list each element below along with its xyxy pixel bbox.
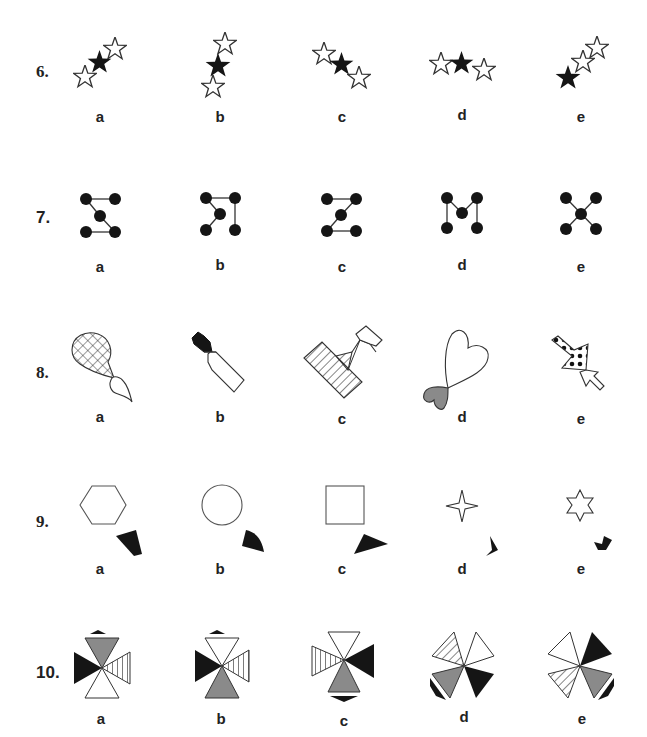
option-label-6c: c bbox=[332, 108, 352, 125]
option-label-10b: b bbox=[211, 710, 231, 727]
option-label-9a: a bbox=[90, 560, 110, 577]
question-number: 7. bbox=[36, 208, 50, 228]
question-number: 6. bbox=[36, 62, 49, 82]
stars-figure-6a[interactable] bbox=[70, 35, 130, 95]
stars-figure-6c[interactable] bbox=[310, 40, 380, 92]
pinwheel-figure-10a[interactable] bbox=[72, 630, 136, 702]
option-label-7b: b bbox=[210, 256, 230, 273]
star6-figure-9e[interactable] bbox=[566, 490, 626, 560]
option-label-7a: a bbox=[90, 258, 110, 275]
stars-figure-6d[interactable] bbox=[428, 46, 498, 86]
arrow-figure-8e[interactable] bbox=[552, 336, 622, 396]
option-label-9d: d bbox=[452, 560, 472, 577]
pinwheel-figure-10d[interactable] bbox=[428, 630, 498, 702]
stars-figure-6e[interactable] bbox=[553, 35, 613, 95]
option-label-10c: c bbox=[334, 712, 354, 729]
dots-figure-7a[interactable] bbox=[78, 192, 128, 242]
striped-figure-8c[interactable] bbox=[300, 322, 395, 402]
stars-figure-6b[interactable] bbox=[198, 30, 238, 100]
pinwheel-figure-10e[interactable] bbox=[546, 630, 616, 702]
dots-figure-7e[interactable] bbox=[558, 191, 608, 241]
dots-figure-7d[interactable] bbox=[439, 190, 489, 240]
option-label-9e: e bbox=[571, 560, 591, 577]
star4-figure-9d[interactable] bbox=[446, 490, 506, 560]
option-label-6a: a bbox=[90, 108, 110, 125]
hearts-figure-8d[interactable] bbox=[420, 326, 500, 414]
option-label-7e: e bbox=[571, 258, 591, 275]
option-label-10e: e bbox=[572, 710, 592, 727]
question-number: 8. bbox=[36, 363, 49, 383]
option-label-6d: d bbox=[452, 106, 472, 123]
option-label-8e: e bbox=[571, 410, 591, 427]
option-label-6b: b bbox=[210, 108, 230, 125]
option-label-9b: b bbox=[210, 560, 230, 577]
pinwheel-figure-10c[interactable] bbox=[310, 630, 374, 702]
option-label-7c: c bbox=[332, 258, 352, 275]
option-label-8d: d bbox=[452, 408, 472, 425]
circle-figure-9b[interactable] bbox=[200, 484, 270, 559]
option-label-7d: d bbox=[452, 256, 472, 273]
hexagon-figure-9a[interactable] bbox=[78, 484, 148, 556]
question-number: 9. bbox=[36, 512, 49, 532]
dots-figure-7c[interactable] bbox=[319, 192, 369, 242]
option-label-9c: c bbox=[332, 560, 352, 577]
dots-figure-7b[interactable] bbox=[198, 192, 248, 242]
option-label-6e: e bbox=[571, 108, 591, 125]
option-label-10a: a bbox=[91, 710, 111, 727]
teardrop-figure-8a[interactable] bbox=[68, 330, 138, 410]
option-label-8a: a bbox=[90, 408, 110, 425]
tag-figure-8b[interactable] bbox=[188, 330, 258, 410]
option-label-10d: d bbox=[454, 708, 474, 725]
square-figure-9c[interactable] bbox=[324, 484, 394, 564]
option-label-8b: b bbox=[210, 408, 230, 425]
pinwheel-figure-10b[interactable] bbox=[193, 630, 257, 702]
question-number: 10. bbox=[36, 663, 60, 683]
option-label-8c: c bbox=[332, 410, 352, 427]
